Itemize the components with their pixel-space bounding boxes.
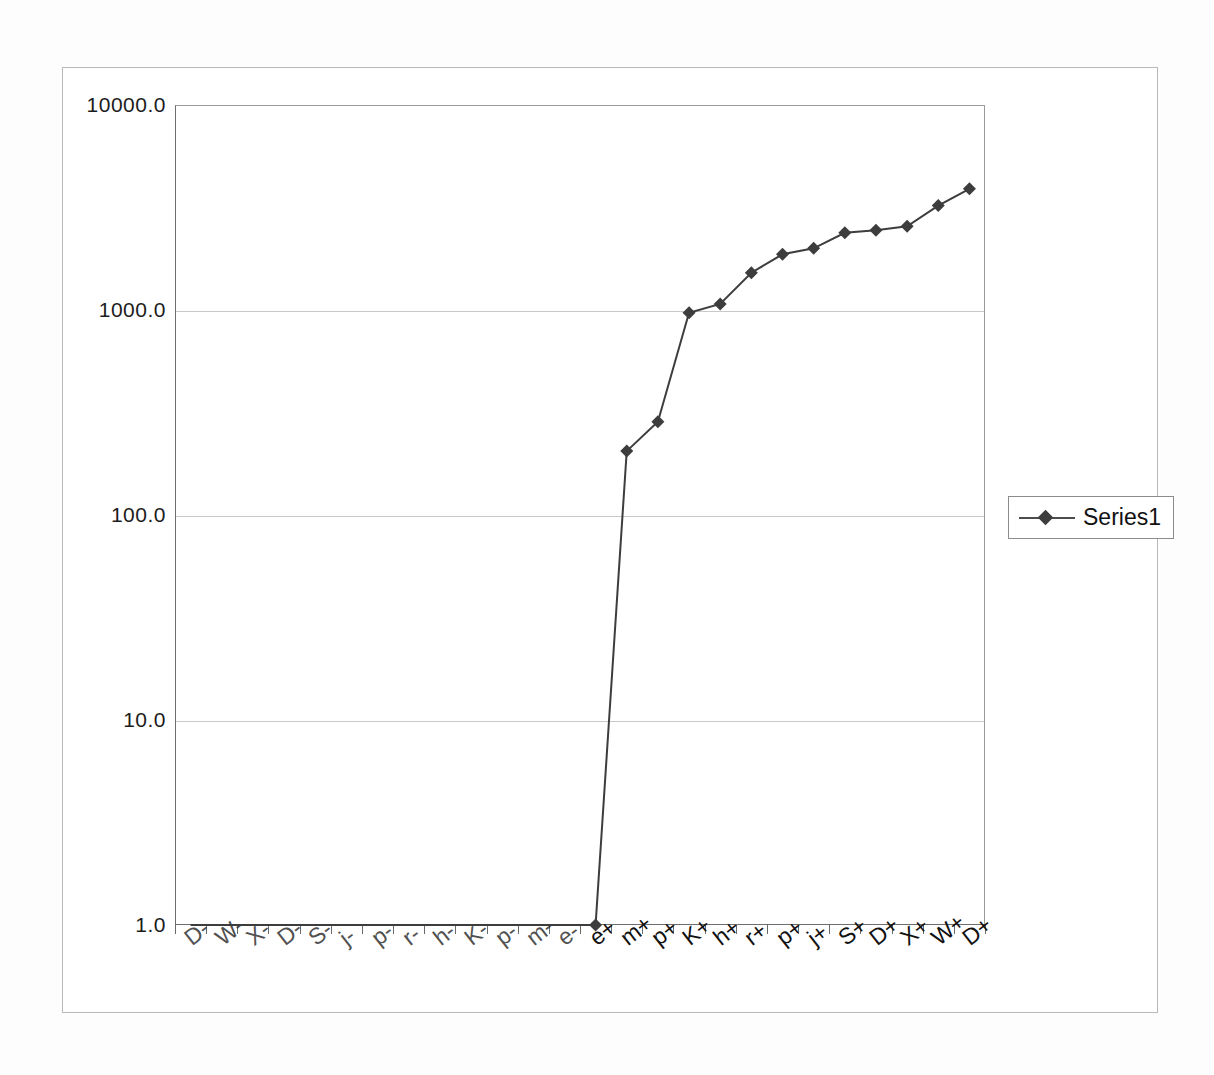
series-data-point-diamond-icon <box>807 242 820 255</box>
chart-page: 1.010.0100.01000.010000.0 D-W-X-D-S-j-p-… <box>0 0 1214 1075</box>
y-axis-tick-label: 10.0 <box>123 708 166 732</box>
y-axis-tick-label: 1.0 <box>135 913 166 937</box>
series-line <box>191 189 970 925</box>
x-axis-labels: D-W-X-D-S-j-p-r-h-K-p-m-e-e+m+p+K+h+r+p+… <box>175 930 985 1010</box>
series-data-point-diamond-icon <box>932 199 945 212</box>
series-data-point-diamond-icon <box>776 248 789 261</box>
y-axis-labels: 1.010.0100.01000.010000.0 <box>62 105 166 925</box>
legend-entry-label: Series1 <box>1083 504 1161 531</box>
series-plot <box>175 105 985 925</box>
series-data-point-diamond-icon <box>838 226 851 239</box>
series-data-point-diamond-icon <box>963 182 976 195</box>
series-data-point-diamond-icon <box>869 224 882 237</box>
y-axis-tick-label: 100.0 <box>111 503 166 527</box>
series-data-point-diamond-icon <box>683 306 696 319</box>
series-data-point-diamond-icon <box>901 220 914 233</box>
legend-marker-diamond-icon <box>1019 511 1075 525</box>
y-axis-tick-label: 1000.0 <box>99 298 166 322</box>
chart-legend: Series1 <box>1008 496 1174 539</box>
y-axis-tick-label: 10000.0 <box>87 93 166 117</box>
